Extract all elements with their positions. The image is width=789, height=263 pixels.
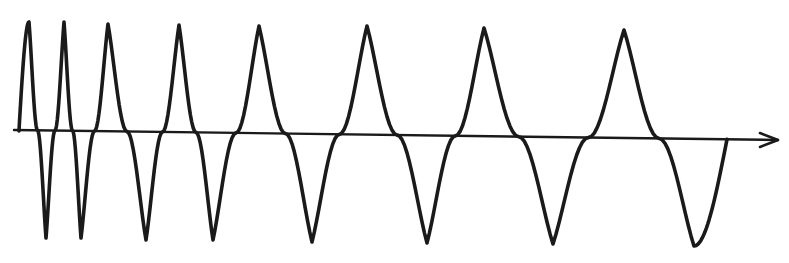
chirp-diagram: Chirp waveform (decreasing frequency) <box>0 0 789 263</box>
diagram-canvas <box>0 0 789 263</box>
